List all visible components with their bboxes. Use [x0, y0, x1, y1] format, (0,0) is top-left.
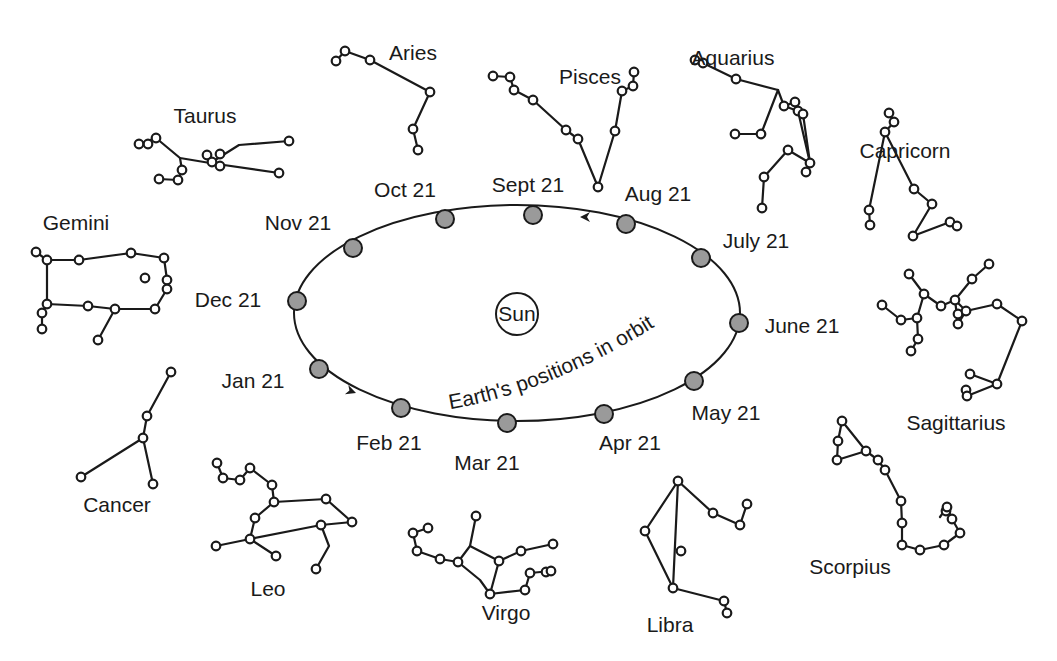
constellation-libra: Libra: [641, 477, 752, 636]
star-icon: [160, 254, 169, 263]
earth-marker-icon: [595, 405, 613, 423]
star-icon: [149, 480, 158, 489]
star-icon: [862, 447, 871, 456]
star-icon: [526, 569, 535, 578]
star-icon: [791, 98, 800, 107]
star-icon: [784, 146, 793, 155]
star-icon: [897, 497, 906, 506]
earth-position-aug-21: Aug 21: [617, 182, 691, 233]
star-icon: [920, 290, 929, 299]
star-icon: [486, 590, 495, 599]
constellation-label: Pisces: [559, 65, 621, 88]
star-icon: [907, 347, 916, 356]
star-icon: [212, 542, 221, 551]
constellation-cancer: Cancer: [77, 368, 176, 516]
constellation-label: Aries: [389, 41, 437, 64]
constellation-label: Cancer: [83, 493, 151, 516]
star-icon: [84, 302, 93, 311]
star-icon: [881, 128, 890, 137]
star-icon: [409, 529, 418, 538]
star-icon: [1018, 317, 1027, 326]
constellation-leo: Leo: [212, 459, 357, 600]
orbit-caption-text: Earth's positions in orbit: [447, 310, 658, 413]
star-icon: [898, 541, 907, 550]
star-icon: [506, 73, 515, 82]
star-icon: [236, 476, 245, 485]
star-icon: [611, 127, 620, 136]
star-icon: [562, 126, 571, 135]
earth-marker-icon: [288, 292, 306, 310]
constellation-aries: Aries: [332, 41, 437, 154]
star-icon: [348, 518, 357, 527]
star-icon: [914, 335, 923, 344]
constellation-capricorn: Capricorn: [859, 109, 961, 241]
star-icon: [962, 307, 971, 316]
star-icon: [866, 221, 875, 230]
star-icon: [865, 206, 874, 215]
star-icon: [366, 56, 375, 65]
star-icon: [341, 47, 350, 56]
star-icon: [874, 456, 883, 465]
date-label: Aug 21: [625, 182, 692, 205]
star-icon: [152, 134, 161, 143]
star-icon: [472, 512, 481, 521]
star-icon: [454, 558, 463, 567]
sun-label: Sun: [498, 302, 535, 325]
constellation-line: [217, 463, 352, 539]
star-icon: [953, 222, 962, 231]
star-icon: [574, 135, 583, 144]
star-icon: [163, 276, 172, 285]
constellation-label: Leo: [250, 577, 285, 600]
star-icon: [833, 456, 842, 465]
star-icon: [758, 204, 767, 213]
constellation-line: [866, 451, 960, 550]
earth-position-dec-21: Dec 21: [195, 288, 306, 311]
star-icon: [272, 552, 281, 561]
star-icon: [669, 584, 678, 593]
earth-marker-icon: [730, 314, 748, 332]
star-icon: [75, 256, 84, 265]
star-icon: [916, 546, 925, 555]
star-icon: [268, 481, 277, 490]
star-icon: [834, 437, 843, 446]
star-icon: [38, 309, 47, 318]
star-icon: [629, 82, 638, 91]
star-icon: [940, 541, 949, 550]
star-icon: [312, 565, 321, 574]
earth-position-apr-21: Apr 21: [595, 405, 661, 454]
earth-position-july-21: July 21: [692, 229, 789, 267]
constellation-line: [458, 561, 499, 594]
star-icon: [285, 137, 294, 146]
star-icon: [897, 316, 906, 325]
star-icon: [993, 300, 1002, 309]
star-icon: [951, 296, 960, 305]
star-icon: [436, 555, 445, 564]
constellation-label: Virgo: [482, 601, 531, 624]
star-icon: [77, 473, 86, 482]
star-icon: [151, 305, 160, 314]
star-icon: [246, 464, 255, 473]
star-icon: [910, 185, 919, 194]
star-icon: [802, 168, 811, 177]
star-icon: [489, 72, 498, 81]
star-icon: [954, 320, 963, 329]
star-icon: [167, 368, 176, 377]
star-icon: [594, 183, 603, 192]
earth-position-june-21: June 21: [730, 314, 839, 337]
star-icon: [731, 130, 740, 139]
star-icon: [413, 547, 422, 556]
star-icon: [178, 166, 187, 175]
ecliptic-constellations-diagram: AriesPiscesAquariusCapricornTaurusGemini…: [0, 0, 1057, 661]
star-icon: [43, 256, 52, 265]
star-icon: [630, 68, 639, 77]
date-label: Oct 21: [374, 178, 436, 201]
star-icon: [216, 162, 225, 171]
star-icon: [409, 125, 418, 134]
orbit-caption: Earth's positions in orbit: [447, 310, 658, 413]
earth-marker-icon: [392, 399, 410, 417]
earth-marker-icon: [617, 215, 635, 233]
star-icon: [743, 500, 752, 509]
constellation-label: Scorpius: [809, 555, 891, 578]
star-icon: [317, 521, 326, 530]
orbit-arrow-icon: [580, 212, 590, 222]
